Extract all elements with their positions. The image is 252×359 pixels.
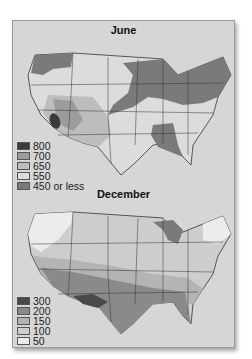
december-map-panel: December <box>13 186 234 346</box>
legend-swatch <box>17 337 30 345</box>
legend-swatch <box>17 152 30 160</box>
june-map-panel: June <box>13 21 234 186</box>
december-legend-item: 50 <box>17 336 51 346</box>
legend-swatch <box>17 142 30 150</box>
legend-swatch <box>17 317 30 325</box>
legend-swatch <box>17 172 30 180</box>
legend-swatch <box>17 297 30 305</box>
legend-swatch <box>17 307 30 315</box>
december-legend: 300 200 150 100 50 <box>17 296 51 346</box>
legend-label: 50 <box>33 336 45 346</box>
legend-swatch <box>17 162 30 170</box>
december-map-title: December <box>13 188 234 200</box>
legend-swatch <box>17 327 30 335</box>
june-legend: 800 700 650 550 450 or less <box>17 141 84 191</box>
map-figure-frame: June <box>12 20 235 348</box>
